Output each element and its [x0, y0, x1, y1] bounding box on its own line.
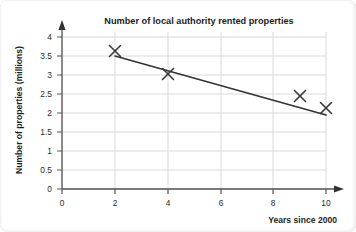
y-tick-label-2.5: 2.5 [40, 89, 52, 99]
x-tick-label-6: 6 [219, 198, 224, 208]
x-tick-label-10: 10 [321, 198, 331, 208]
x-axis-tick-labels: 0 2 4 6 8 10 [60, 198, 331, 208]
y-axis-arrowhead [58, 20, 65, 30]
figure-frame: 0 0.5 1 1.5 2 2.5 3 3.5 4 0 2 4 6 8 10 [0, 0, 356, 232]
chart-canvas: 0 0.5 1 1.5 2 2.5 3 3.5 4 0 2 4 6 8 10 [0, 0, 356, 232]
y-axis-title: Number of properties (millions) [14, 46, 24, 174]
x-axis-ticks [62, 189, 326, 194]
x-tick-label-8: 8 [271, 198, 276, 208]
y-tick-label-1: 1 [47, 146, 52, 156]
data-point-marker [295, 91, 306, 102]
x-axis-title: Years since 2000 [268, 215, 337, 225]
y-tick-label-4: 4 [47, 32, 52, 42]
y-tick-label-3.5: 3.5 [40, 51, 52, 61]
y-tick-label-0: 0 [47, 184, 52, 194]
y-tick-label-3: 3 [47, 70, 52, 80]
y-tick-label-0.5: 0.5 [40, 165, 52, 175]
chart-title: Number of local authority rented propert… [104, 16, 293, 26]
y-tick-label-1.5: 1.5 [40, 127, 52, 137]
x-tick-label-2: 2 [113, 198, 118, 208]
x-tick-label-0: 0 [60, 198, 65, 208]
y-tick-label-2: 2 [47, 108, 52, 118]
axes [58, 20, 344, 193]
x-tick-label-4: 4 [166, 198, 171, 208]
grid-horizontal-lines [62, 37, 326, 189]
x-axis-arrowhead [334, 185, 344, 192]
y-axis-ticks [57, 37, 62, 189]
y-axis-tick-labels: 0 0.5 1 1.5 2 2.5 3 3.5 4 [40, 32, 52, 194]
